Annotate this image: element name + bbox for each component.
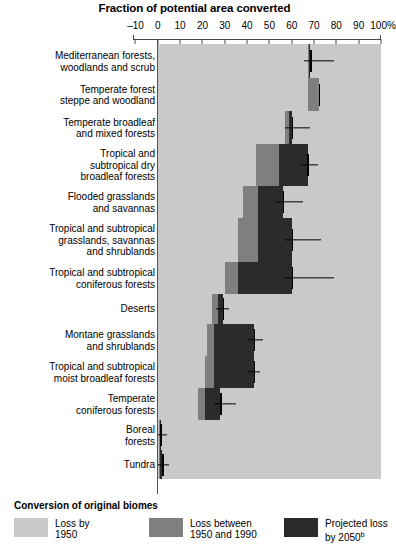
bar-row: Flooded grasslands and savannas: [0, 186, 389, 218]
segment-loss-by-1950: [158, 78, 308, 111]
bar-row-label: Mediterranean forests, woodlands and scr…: [5, 50, 155, 73]
axis-tick-mark: [336, 39, 337, 44]
bar-track: [158, 294, 381, 324]
segment-loss-by-1950: [158, 144, 256, 186]
bar-track: [158, 420, 381, 450]
axis-tick-label: 10: [175, 20, 186, 31]
whisker-cap: [254, 329, 255, 351]
bar-row: Montane grasslands and shrublands: [0, 324, 389, 356]
bar-row-label: Tropical and subtropical coniferous fore…: [5, 267, 155, 290]
axis-tick-label: 30: [219, 20, 230, 31]
legend-items: Loss by 1950Loss between 1950 and 1990Pr…: [14, 518, 389, 543]
bar-row-label: Temperate coniferous forests: [5, 393, 155, 416]
legend-item: Loss between 1950 and 1990: [149, 518, 284, 540]
legend-item: Loss by 1950: [14, 518, 149, 540]
segment-loss-1950-1990: [256, 144, 278, 186]
segment-loss-by-1950: [158, 218, 238, 262]
bar-track: [158, 44, 381, 78]
bar-row-label: Deserts: [5, 303, 155, 315]
legend-label: Loss between 1950 and 1990: [190, 518, 257, 540]
bar-track: [158, 356, 381, 388]
error-whisker: [285, 239, 321, 240]
bar-row: Temperate coniferous forests: [0, 388, 389, 420]
segment-loss-1950-1990: [205, 356, 214, 388]
axis-tick-label: 20: [197, 20, 208, 31]
x-axis-line: [133, 39, 381, 40]
bar-row: Tropical and subtropical moist broadleaf…: [0, 356, 389, 388]
error-whisker: [304, 60, 335, 61]
bar-row-label: Montane grasslands and shrublands: [5, 329, 155, 352]
bar-row-label: Boreal forests: [5, 424, 155, 447]
bar-row: Temperate broadleaf and mixed forests: [0, 111, 389, 144]
error-whisker: [158, 434, 167, 435]
bar-row-label: Temperate broadleaf and mixed forests: [5, 116, 155, 139]
bar-row-label: Tropical and subtropical dry broadleaf f…: [5, 148, 155, 183]
whisker-cap: [162, 454, 163, 476]
error-whisker: [285, 127, 310, 128]
legend-title: Conversion of original biomes: [14, 500, 389, 511]
legend-swatch: [149, 518, 183, 537]
axis-tick-mark: [202, 39, 203, 44]
segment-loss-1950-1990: [207, 324, 214, 356]
bar-track: [158, 388, 381, 420]
axis-tick-mark: [314, 39, 315, 44]
whisker-cap: [292, 117, 293, 139]
bar-row: Tropical and subtropical grasslands, sav…: [0, 218, 389, 262]
whisker-cap: [254, 361, 255, 383]
legend-swatch: [284, 518, 318, 537]
axis-tick-label: –10: [127, 20, 144, 31]
bar-row: Temperate forest steppe and woodland: [0, 78, 389, 111]
axis-tick-mark: [247, 39, 248, 44]
legend-footnote-marker: b: [361, 530, 365, 539]
whisker-cap: [292, 229, 293, 251]
axis-tick-mark: [358, 39, 359, 44]
error-whisker: [214, 403, 236, 404]
bar-row-label: Temperate forest steppe and woodland: [5, 83, 155, 106]
segment-loss-1950-1990: [225, 262, 238, 294]
bar-row-label: Tundra: [5, 459, 155, 471]
segment-loss-by-1950: [158, 262, 225, 294]
bar-row-label: Flooded grasslands and savannas: [5, 191, 155, 214]
chart-title: Fraction of potential area converted: [0, 2, 389, 14]
axis-tick-mark: [135, 39, 136, 44]
whisker-cap: [223, 298, 224, 320]
axis-tick-label: 100%: [370, 20, 396, 31]
bar-row: Deserts: [0, 294, 389, 324]
axis-tick-label: 80: [331, 20, 342, 31]
axis-tick-label: 60: [286, 20, 297, 31]
axis-tick-mark: [291, 39, 292, 44]
bar-rows: Mediterranean forests, woodlands and scr…: [0, 44, 389, 479]
bar-row: Mediterranean forests, woodlands and scr…: [0, 44, 389, 78]
bar-row: Tropical and subtropical coniferous fore…: [0, 262, 389, 294]
axis-tick-label: 70: [308, 20, 319, 31]
axis-tick-label: 40: [242, 20, 253, 31]
legend-swatch: [14, 518, 48, 537]
segment-loss-by-1950: [158, 324, 207, 356]
axis-tick-mark: [180, 39, 181, 44]
axis-tick-label: 90: [353, 20, 364, 31]
segment-loss-1950-1990: [238, 218, 258, 262]
whisker-cap: [292, 267, 293, 289]
bar-track: [158, 78, 381, 111]
legend-item: Projected loss by 2050b: [284, 518, 389, 543]
error-whisker: [301, 164, 319, 165]
bar-row-label: Tropical and subtropical grasslands, sav…: [5, 223, 155, 258]
bar-row: Tropical and subtropical dry broadleaf f…: [0, 144, 389, 186]
whisker-cap: [160, 424, 161, 446]
whisker-cap: [283, 191, 284, 213]
segment-loss-1950-1990: [308, 78, 319, 111]
bar-row: Tundra: [0, 450, 389, 479]
bar-track: [158, 144, 381, 186]
whisker-cap: [319, 84, 320, 106]
axis-tick-label: 0: [155, 20, 161, 31]
bar-track: [158, 111, 381, 144]
plot-area: –100102030405060708090100% Mediterranean…: [0, 20, 389, 485]
segment-loss-by-1950: [158, 111, 285, 144]
segment-loss-by-1950: [158, 294, 212, 324]
error-whisker: [276, 201, 303, 202]
bar-track: [158, 450, 381, 479]
segment-projected-loss-2050: [238, 262, 292, 294]
segment-loss-1950-1990: [243, 186, 259, 218]
bar-row-label: Tropical and subtropical moist broadleaf…: [5, 361, 155, 384]
legend-label: Projected loss by 2050b: [325, 518, 388, 543]
